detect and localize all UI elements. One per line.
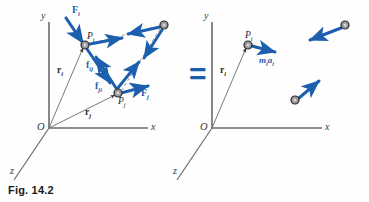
left-origin-label: O [37,122,45,133]
left-position-vectors [49,48,115,128]
right-z-axis-label: z [173,166,177,176]
right-particle-Pi-label: Pi [245,31,253,42]
internal-force-fji-label: fji [95,81,102,94]
position-vector-rj-label: rj [85,108,91,119]
right-y-axis-label: y [204,11,208,21]
right-x-axis-label: x [325,122,329,132]
external-force-Fi-label: Fi [72,5,80,18]
position-vector-ri-label-left: ri [57,66,63,77]
left-z-axis-label: z [10,166,14,176]
figure-14-2: y x z O Fi Pi Pj Fj fij fji ri rj = y x … [0,0,369,202]
effective-force-mai-label: miai [259,56,274,67]
particle-Pi-label: Pi [87,32,95,43]
right-origin-label: O [200,122,208,133]
internal-force-fij-label: fij [86,60,93,73]
right-position-vector [212,48,246,128]
left-y-axis-label: y [41,11,45,21]
position-vector-ri-label-right: ri [220,66,226,77]
left-force-vectors [66,18,162,93]
left-x-axis-label: x [151,122,155,132]
external-force-Fj-label: Fj [141,88,149,101]
diagram-artwork [0,0,369,202]
particle-Pj-label: Pj [118,97,126,108]
figure-caption: Fig. 14.2 [8,184,54,196]
equals-sign: = [189,59,207,89]
